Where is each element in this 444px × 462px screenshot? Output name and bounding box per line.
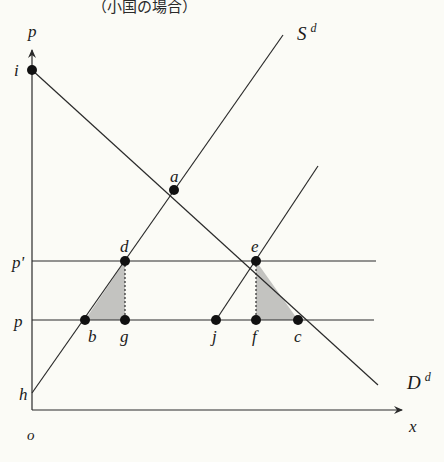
label-f: f — [252, 327, 259, 346]
label-e: e — [251, 237, 259, 256]
point-e — [251, 256, 261, 266]
price-label-p: p — [13, 312, 23, 331]
point-g — [120, 315, 130, 325]
y-axis-label: p — [27, 22, 37, 41]
x-axis-label: x — [408, 417, 417, 436]
label-c: c — [294, 327, 302, 346]
tariff-diagram: （小国の場合） p x o p' p Sd Dd i a d e b g j f… — [0, 0, 444, 462]
point-d — [120, 256, 130, 266]
label-j: j — [210, 327, 217, 346]
label-d: d — [120, 237, 129, 256]
demand-curve — [32, 70, 378, 385]
label-b: b — [88, 327, 97, 346]
point-b — [80, 315, 90, 325]
deadweight-loss-consumption — [256, 261, 298, 320]
point-f — [251, 315, 261, 325]
demand-curve-label: Dd — [406, 370, 432, 393]
point-a — [169, 185, 179, 195]
supply-curve-label: Sd — [297, 21, 318, 44]
price-label-p-prime: p' — [11, 253, 25, 272]
point-i — [27, 65, 37, 75]
origin-label: o — [27, 427, 35, 443]
label-g: g — [120, 327, 129, 346]
point-j — [211, 315, 221, 325]
label-a: a — [170, 167, 179, 186]
point-c — [293, 315, 303, 325]
supply-curve — [32, 35, 283, 393]
label-i: i — [14, 61, 19, 80]
label-h: h — [19, 385, 28, 404]
diagram-title: （小国の場合） — [92, 0, 197, 16]
